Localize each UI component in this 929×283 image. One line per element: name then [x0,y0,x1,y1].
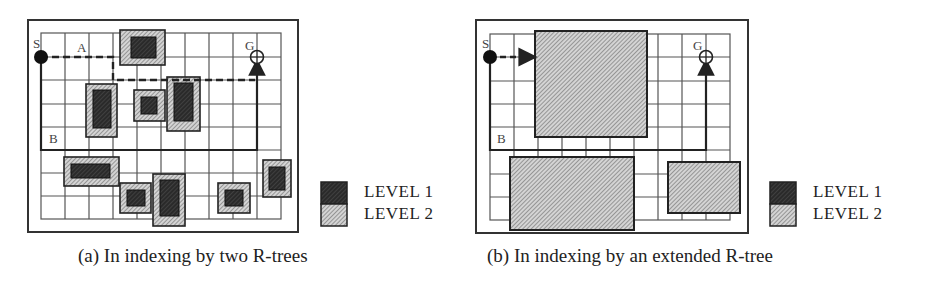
figure-b [476,20,796,233]
path-a-label: A [77,40,86,56]
path-b-label: B [49,131,58,147]
obstacle [510,157,634,230]
legend-level1-label: LEVEL 1 [813,182,882,202]
legend-level2-label: LEVEL 2 [364,204,433,224]
legend-b-swatch [770,182,796,226]
start-label: S [482,36,489,52]
goal-label: G [693,38,702,54]
path-b-label: B [497,131,506,147]
goal-label: G [245,38,254,54]
figure-a [28,20,347,232]
start-label: S [33,36,40,52]
figure-canvas [0,0,929,283]
start-point [34,50,48,64]
obstacle [668,162,740,213]
legend-level1-label: LEVEL 1 [364,182,433,202]
caption-b: (b) In indexing by an extended R-tree [487,245,773,267]
legend-a-swatch [321,182,347,226]
legend-level2-label: LEVEL 2 [813,204,882,224]
start-point [483,50,497,64]
obstacle [535,31,647,137]
caption-a: (a) In indexing by two R-trees [78,245,308,267]
